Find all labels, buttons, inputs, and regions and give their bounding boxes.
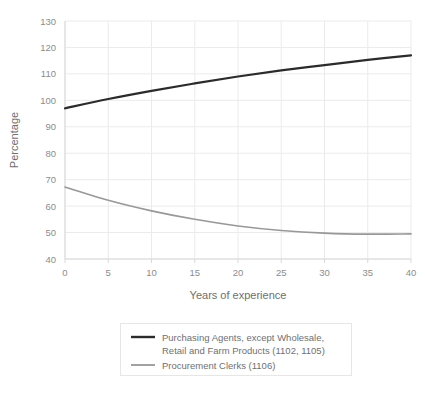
- x-tick-label: 20: [233, 267, 244, 278]
- x-tick-label: 40: [406, 267, 417, 278]
- y-tick-label: 120: [40, 42, 56, 53]
- y-tick-label: 90: [45, 121, 56, 132]
- legend-label-series-1-line1: Purchasing Agents, except Wholesale,: [162, 332, 324, 343]
- x-tick-label: 25: [276, 267, 287, 278]
- y-tick-label: 130: [40, 16, 56, 27]
- line-chart: 0510152025303540 40506070809010011012013…: [0, 0, 425, 396]
- y-tick-label: 80: [45, 148, 56, 159]
- chart-figure: 0510152025303540 40506070809010011012013…: [0, 0, 425, 396]
- x-tick-label: 30: [319, 267, 330, 278]
- x-axis-title: Years of experience: [190, 289, 287, 301]
- y-tick-labels: 405060708090100110120130: [40, 16, 56, 265]
- y-tick-label: 100: [40, 95, 56, 106]
- y-tick-label: 70: [45, 174, 56, 185]
- legend-label-series-2-line1: Procurement Clerks (1106): [162, 360, 275, 371]
- y-tick-label: 50: [45, 227, 56, 238]
- x-tick-label: 35: [362, 267, 373, 278]
- x-tick-labels: 0510152025303540: [62, 267, 416, 278]
- x-tick-marks: [65, 259, 411, 263]
- x-tick-label: 0: [62, 267, 67, 278]
- y-tick-label: 40: [45, 254, 56, 265]
- x-tick-label: 5: [106, 267, 111, 278]
- y-tick-label: 110: [41, 68, 56, 79]
- x-tick-label: 15: [189, 267, 200, 278]
- legend: Purchasing Agents, except Wholesale, Ret…: [121, 324, 352, 376]
- x-tick-label: 10: [146, 267, 157, 278]
- legend-label-series-1-line2: Retail and Farm Products (1102, 1105): [162, 345, 325, 356]
- y-tick-label: 60: [45, 201, 56, 212]
- y-axis-title: Percentage: [8, 112, 20, 168]
